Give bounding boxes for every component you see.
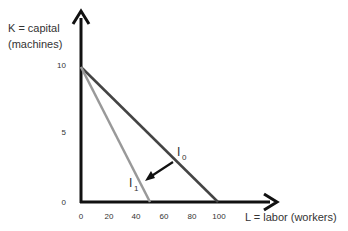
- svg-text:I: I: [177, 145, 180, 159]
- x-tick-100: 100: [212, 212, 226, 221]
- line-i1: [81, 67, 150, 202]
- svg-text:1: 1: [134, 184, 139, 193]
- x-axis: [80, 194, 277, 210]
- shift-arrow-icon: [145, 162, 173, 181]
- x-axis-label: L = labor (workers): [245, 211, 337, 223]
- y-axis-label-line2: (machines): [8, 38, 62, 50]
- chart: K = capital (machines) 10 5 0 0 20 40 60…: [0, 0, 348, 231]
- y-axis-label-line1: K = capital: [8, 22, 60, 34]
- y-tick-0: 0: [62, 198, 67, 207]
- x-tick-40: 40: [132, 212, 141, 221]
- svg-text:0: 0: [182, 153, 187, 162]
- label-i0: I 0: [177, 145, 187, 162]
- svg-text:I: I: [129, 176, 132, 190]
- y-axis: [73, 11, 89, 203]
- y-tick-5: 5: [62, 128, 67, 137]
- x-tick-60: 60: [160, 212, 169, 221]
- x-tick-0: 0: [79, 212, 84, 221]
- y-tick-10: 10: [57, 61, 66, 70]
- x-tick-20: 20: [105, 212, 114, 221]
- line-i0: [81, 67, 218, 202]
- x-tick-80: 80: [188, 212, 197, 221]
